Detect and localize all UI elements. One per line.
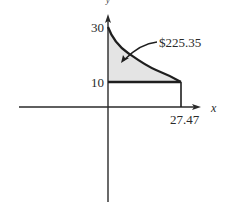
chart-canvas: y 30 10 27.47 x $225.35 bbox=[0, 0, 229, 210]
x-axis-label: x bbox=[210, 101, 217, 115]
x-tick-27-47: 27.47 bbox=[170, 112, 200, 127]
y-axis-label: y bbox=[105, 0, 110, 5]
y-tick-10: 10 bbox=[91, 75, 104, 90]
area-annotation-label: $225.35 bbox=[159, 35, 201, 50]
y-tick-30: 30 bbox=[91, 20, 104, 35]
